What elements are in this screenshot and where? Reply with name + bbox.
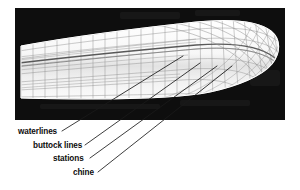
label-waterlines: waterlines bbox=[17, 127, 58, 136]
label-chine: chine bbox=[73, 168, 94, 177]
label-buttock-lines: buttock lines bbox=[33, 141, 83, 150]
figure-container: waterlines buttock lines stations chine bbox=[0, 0, 300, 190]
label-stations: stations bbox=[53, 154, 84, 163]
hull-diagram: waterlines buttock lines stations chine bbox=[0, 0, 300, 190]
